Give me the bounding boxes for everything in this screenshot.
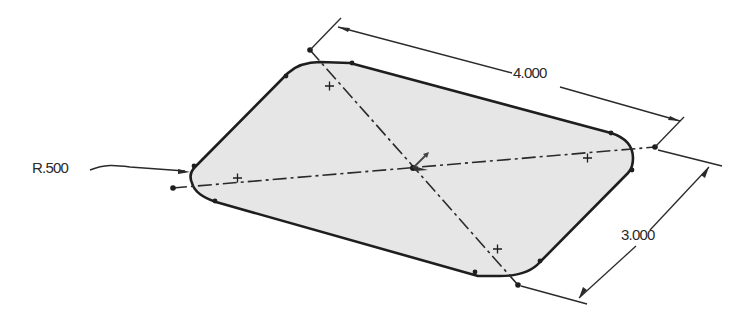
dimension-label-radius[interactable]: R.500	[32, 159, 68, 176]
dimension-label-length[interactable]: 4.000	[513, 64, 547, 81]
dimension-label-width[interactable]: 3.000	[621, 226, 655, 243]
radius-leader[interactable]	[90, 165, 190, 174]
sketch-svg	[0, 0, 744, 326]
drawing-canvas: 4.000 3.000 R.500	[0, 0, 744, 326]
